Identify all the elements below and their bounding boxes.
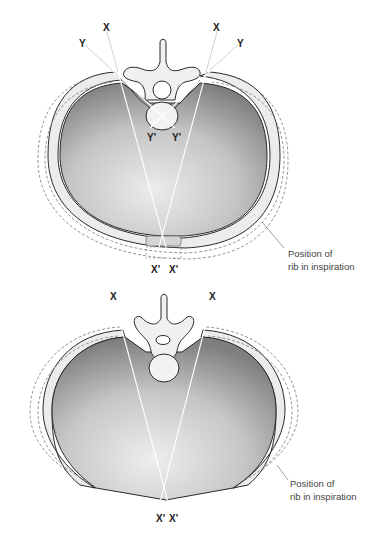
vertebral-body-2 [149, 354, 179, 382]
caption-bottom-line2: rib in inspiration [290, 491, 357, 502]
label-y-left: Y [79, 38, 86, 49]
caption-bottom-line1: Position of [290, 478, 335, 489]
label-y-prime-left: Y' [147, 132, 156, 143]
figure-top: X X Y Y Y' Y' X' X' Position of rib in i… [38, 22, 355, 275]
label-x-right: X [213, 22, 220, 33]
diagram-canvas: X X Y Y Y' Y' X' X' Position of rib in i… [0, 0, 371, 542]
caption-top-line1: Position of [288, 248, 333, 259]
caption-top-line2: rib in inspiration [288, 261, 355, 272]
label-x-prime-left-2: X' [156, 513, 165, 524]
label-x-right-2: X [209, 291, 216, 302]
label-y-right: Y [237, 38, 244, 49]
figure-bottom: X X X' X' Position of rib in inspiration [30, 291, 357, 524]
label-y-prime-right: Y' [172, 132, 181, 143]
label-x-prime-right-2: X' [169, 513, 178, 524]
label-x-prime-left: X' [151, 264, 160, 275]
label-x-left: X [103, 22, 110, 33]
caption-leader-bottom [277, 465, 288, 480]
caption-leader-top [262, 222, 284, 248]
label-x-prime-right: X' [169, 264, 178, 275]
label-x-left-2: X [110, 291, 117, 302]
